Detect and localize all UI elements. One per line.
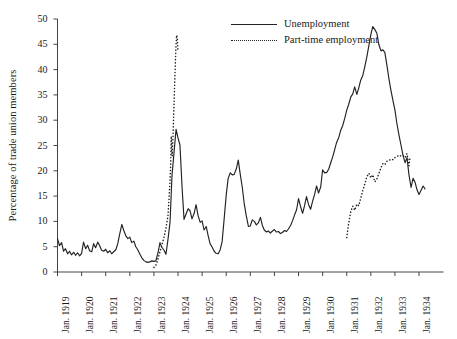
y-tick-label: 35 bbox=[22, 90, 48, 100]
x-tick-label: Jan. 1923 bbox=[158, 297, 168, 333]
y-axis-label-wrapper: Percentage of trade union members bbox=[2, 0, 22, 290]
y-tick-label: 10 bbox=[22, 216, 48, 226]
legend-label-part-time-employment: Part-time employment bbox=[284, 32, 378, 48]
y-tick-label: 50 bbox=[22, 14, 48, 24]
x-tick-label: Jan. 1925 bbox=[206, 297, 216, 333]
y-tick-label: 45 bbox=[22, 39, 48, 49]
x-tick-label: Jan. 1934 bbox=[423, 297, 433, 333]
x-tick-label: Jan. 1932 bbox=[375, 297, 385, 333]
x-tick-label: Jan. 1927 bbox=[254, 297, 264, 333]
x-tick-label: Jan. 1919 bbox=[62, 297, 72, 333]
chart-plot-area bbox=[0, 0, 457, 339]
y-tick-label: 5 bbox=[22, 242, 48, 252]
legend-swatch-solid-line-icon bbox=[231, 19, 277, 29]
y-tick-label: 30 bbox=[22, 115, 48, 125]
y-tick-label: 25 bbox=[22, 141, 48, 151]
chart-legend: Unemployment Part-time employment bbox=[231, 16, 378, 48]
y-axis-label: Percentage of trade union members bbox=[7, 69, 18, 221]
x-tick-label: Jan. 1929 bbox=[303, 297, 313, 333]
y-tick-label: 20 bbox=[22, 166, 48, 176]
x-tick-label: Jan. 1931 bbox=[351, 297, 361, 333]
x-tick-label: Jan. 1928 bbox=[278, 297, 288, 333]
x-tick-label: Jan. 1930 bbox=[327, 297, 337, 333]
y-tick-label: 15 bbox=[22, 191, 48, 201]
x-tick-label: Jan. 1921 bbox=[110, 297, 120, 333]
x-tick-label: Jan. 1920 bbox=[86, 297, 96, 333]
unemployment-chart: Percentage of trade union members 051015… bbox=[0, 0, 457, 339]
y-tick-label: 0 bbox=[22, 267, 48, 277]
x-tick-label: Jan. 1922 bbox=[134, 297, 144, 333]
legend-label-unemployment: Unemployment bbox=[284, 16, 349, 32]
legend-item-part-time-employment: Part-time employment bbox=[231, 32, 378, 48]
x-tick-label: Jan. 1933 bbox=[399, 297, 409, 333]
legend-swatch-dotted-line-icon bbox=[231, 35, 277, 45]
legend-item-unemployment: Unemployment bbox=[231, 16, 378, 32]
y-tick-label: 40 bbox=[22, 65, 48, 75]
x-tick-label: Jan. 1926 bbox=[230, 297, 240, 333]
x-tick-label: Jan. 1924 bbox=[182, 297, 192, 333]
